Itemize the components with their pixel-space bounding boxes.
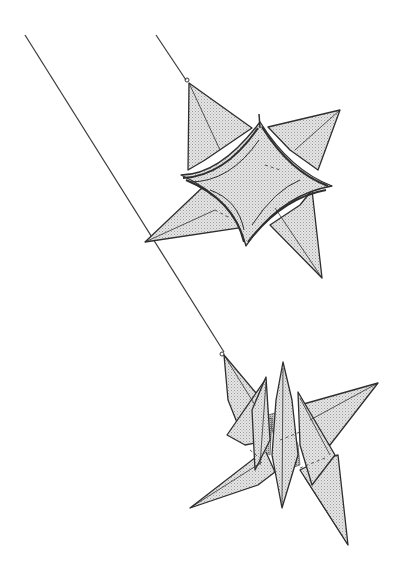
short-string <box>156 35 186 80</box>
origami-illustration <box>0 0 400 582</box>
upper-star <box>145 83 340 278</box>
long-string <box>25 35 224 352</box>
lower-star <box>190 355 378 545</box>
lower-star-left-wing <box>190 450 275 508</box>
lower-star-center-spike <box>272 362 298 508</box>
